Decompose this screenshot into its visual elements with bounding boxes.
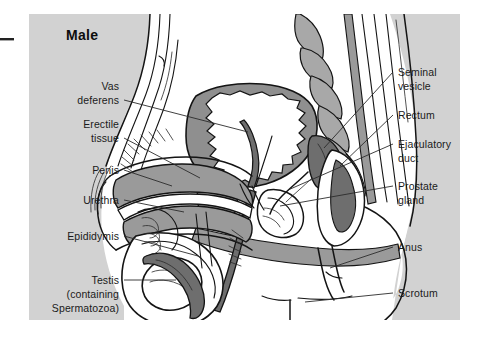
label-vas-deferens-line1: Vas <box>101 80 119 92</box>
male-reproductive-anatomy-figure: Male Vas deferens Erectile tissue Penis … <box>0 0 482 338</box>
margin-registration-mark <box>0 38 14 40</box>
label-seminal-vesicle-line1: Seminal <box>398 66 437 78</box>
label-penis-text: Penis <box>92 164 119 176</box>
label-prostate-gland-line2: gland <box>398 194 424 206</box>
label-testis-line2: (containing <box>67 288 120 300</box>
label-erectile-tissue-line2: tissue <box>91 132 119 144</box>
label-ejaculatory-duct-line1: Ejaculatory <box>398 138 452 150</box>
label-rectum-text: Rectum <box>398 109 435 121</box>
label-seminal-vesicle-line2: vesicle <box>398 80 431 92</box>
label-erectile-tissue-line1: Erectile <box>83 118 119 130</box>
label-epididymis-text: Epididymis <box>67 230 119 242</box>
label-urethra-text: Urethra <box>83 194 119 206</box>
label-anus-text: Anus <box>398 241 422 253</box>
label-scrotum-text: Scrotum <box>398 287 438 299</box>
label-prostate-gland-line1: Prostate <box>398 180 438 192</box>
label-testis-line3: Spermatozoa) <box>52 302 119 314</box>
label-vas-deferens-line2: deferens <box>77 94 119 106</box>
figure-title: Male <box>66 27 98 43</box>
label-testis-line1: Testis <box>92 274 119 286</box>
label-ejaculatory-duct-line2: duct <box>398 152 418 164</box>
